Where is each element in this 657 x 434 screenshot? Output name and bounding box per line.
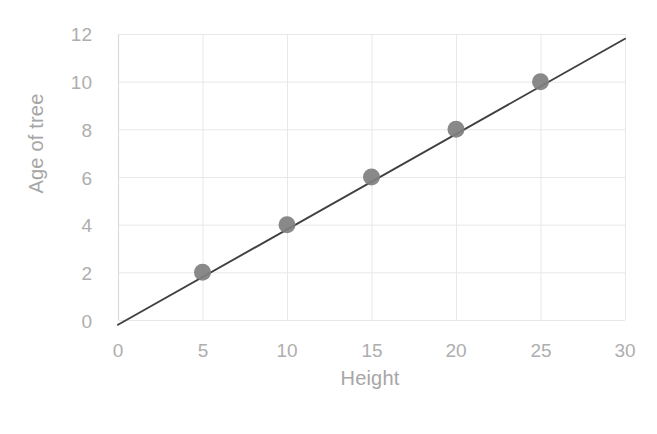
- data-point-marker: [448, 121, 465, 138]
- scatter-chart-figure: Age of tree 0 2 4 6 8 10 12 0 5 10 15 20…: [0, 0, 657, 434]
- data-point-marker: [363, 169, 380, 186]
- plot-area: [0, 0, 657, 434]
- data-point-marker: [532, 73, 549, 90]
- data-point-marker: [194, 264, 211, 281]
- data-point-marker: [279, 216, 296, 233]
